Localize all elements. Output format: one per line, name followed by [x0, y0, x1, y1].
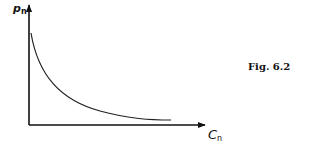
- curve: [31, 33, 171, 120]
- x-axis-label: Cn: [208, 127, 222, 143]
- x-label-sub: n: [217, 134, 222, 143]
- y-label-sub: n: [21, 7, 27, 16]
- x-label-main: C: [208, 127, 217, 142]
- y-label-main: p: [13, 2, 21, 15]
- y-axis-label: pn: [13, 2, 27, 16]
- figure-caption: Fig. 6.2: [248, 61, 290, 72]
- figure-plot: [0, 0, 313, 150]
